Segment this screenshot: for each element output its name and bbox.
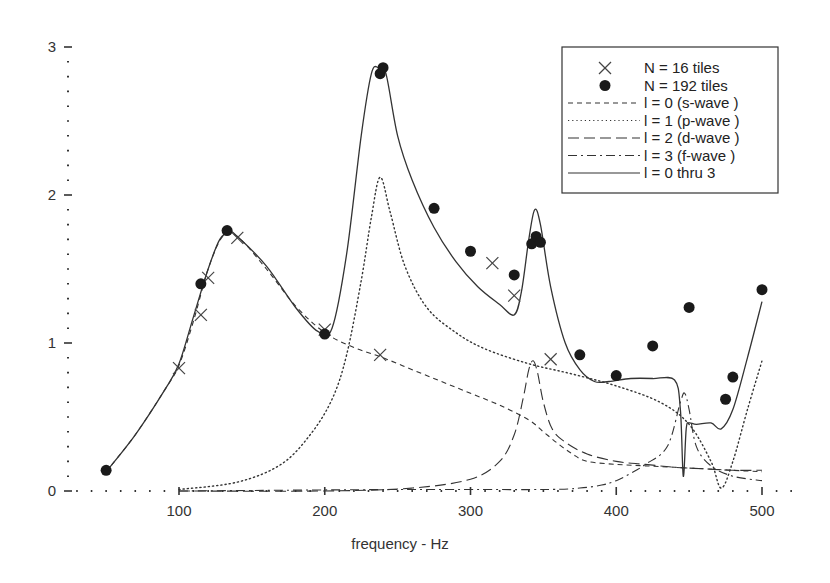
y-tick-label: 0 (48, 482, 56, 499)
y-tick-label: 2 (48, 186, 56, 203)
legend-label: l = 3 (f-wave ) (644, 147, 735, 164)
circle-marker-icon (600, 80, 611, 91)
point-n192 (535, 237, 546, 248)
point-n192 (222, 225, 233, 236)
point-n192 (574, 349, 585, 360)
x-tick-label: 100 (166, 502, 191, 519)
point-n192 (319, 329, 330, 340)
chart: 0123100200300400500 N = 16 tilesN = 192 … (0, 0, 830, 583)
point-n192 (647, 340, 658, 351)
point-n16 (231, 232, 243, 244)
curve-dashed (106, 232, 762, 471)
point-n192 (429, 203, 440, 214)
point-n16 (508, 290, 520, 302)
point-n192 (195, 278, 206, 289)
point-n16 (195, 309, 207, 321)
point-n192 (720, 394, 731, 405)
point-n192 (465, 246, 476, 257)
legend-label: l = 2 (d-wave ) (644, 129, 739, 146)
point-n192 (684, 302, 695, 313)
legend-label: N = 192 tiles (644, 77, 728, 94)
point-n192 (509, 269, 520, 280)
point-n192 (757, 284, 768, 295)
legend-label: l = 0 thru 3 (644, 164, 715, 181)
point-n16 (545, 353, 557, 365)
curve-dashdot (179, 393, 762, 491)
legend-label: l = 0 (s-wave ) (644, 94, 739, 111)
x-axis-title: frequency - Hz (351, 535, 449, 552)
point-n16 (486, 257, 498, 269)
legend-label: N = 16 tiles (644, 59, 719, 76)
point-n192 (611, 370, 622, 381)
y-tick-label: 3 (48, 38, 56, 55)
y-tick-label: 1 (48, 334, 56, 351)
x-tick-label: 200 (312, 502, 337, 519)
x-tick-label: 500 (749, 502, 774, 519)
point-n192 (378, 62, 389, 73)
x-tick-label: 300 (458, 502, 483, 519)
x-tick-label: 400 (604, 502, 629, 519)
curve-dotted (179, 177, 762, 489)
legend-label: l = 1 (p-wave ) (644, 112, 739, 129)
point-n192 (101, 465, 112, 476)
legend: N = 16 tilesN = 192 tilesl = 0 (s-wave )… (562, 47, 778, 193)
point-n192 (727, 372, 738, 383)
